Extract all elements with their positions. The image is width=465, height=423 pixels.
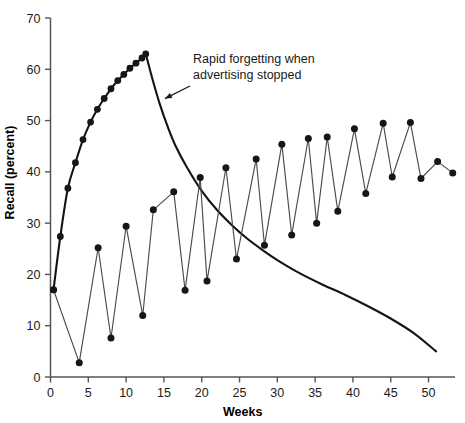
y-tick-label: 10 <box>27 319 41 333</box>
x-tick-label: 10 <box>119 386 133 400</box>
data-point-marker <box>120 71 127 78</box>
y-tick-label: 70 <box>27 12 41 26</box>
data-point-marker <box>434 158 441 165</box>
data-point-marker <box>449 169 456 176</box>
data-point-marker <box>380 120 387 127</box>
y-tick-label: 60 <box>27 63 41 77</box>
x-tick-label: 40 <box>346 386 360 400</box>
data-point-marker <box>170 188 177 195</box>
data-point-marker <box>64 185 71 192</box>
data-point-marker <box>233 256 240 263</box>
annotation-line-2: advertising stopped <box>193 68 301 82</box>
x-tick-label: 15 <box>157 386 171 400</box>
data-point-marker <box>204 278 211 285</box>
annotation-arrowhead <box>165 93 173 99</box>
data-point-marker <box>76 359 83 366</box>
x-tick-label: 0 <box>47 386 54 400</box>
data-point-marker <box>278 141 285 148</box>
y-tick-label: 30 <box>27 217 41 231</box>
data-point-marker <box>108 85 115 92</box>
data-point-marker <box>87 119 94 126</box>
x-tick-label: 5 <box>85 386 92 400</box>
data-point-marker <box>101 95 108 102</box>
x-tick-label: 50 <box>422 386 436 400</box>
data-point-marker <box>305 135 312 142</box>
data-point-marker <box>197 174 204 181</box>
data-point-marker <box>362 190 369 197</box>
data-point-marker <box>313 220 320 227</box>
data-point-marker <box>150 206 157 213</box>
data-point-marker <box>182 287 189 294</box>
x-tick-label: 35 <box>308 386 322 400</box>
series-layer <box>50 51 456 367</box>
x-tick-label: 45 <box>384 386 398 400</box>
data-point-marker <box>126 65 133 72</box>
x-tick-label: 30 <box>270 386 284 400</box>
data-point-marker <box>139 312 146 319</box>
data-point-marker <box>142 51 149 58</box>
x-axis-title: Weeks <box>223 405 262 419</box>
chart-canvas: Rapid forgetting whenadvertising stopped… <box>0 0 465 423</box>
data-point-marker <box>261 242 268 249</box>
y-axis-title: Recall (percent) <box>3 126 17 220</box>
y-tick-label: 20 <box>27 268 41 282</box>
series-line-forgetting-decay-after-advertising-stopped <box>146 54 436 351</box>
data-point-marker <box>72 159 79 166</box>
data-point-marker <box>417 175 424 182</box>
data-point-marker <box>50 286 57 293</box>
y-tick-label: 50 <box>27 114 41 128</box>
data-point-marker <box>57 233 64 240</box>
recall-vs-weeks-chart: Rapid forgetting whenadvertising stopped… <box>0 0 465 423</box>
data-point-marker <box>253 156 260 163</box>
data-point-marker <box>133 60 140 67</box>
data-point-marker <box>334 208 341 215</box>
data-point-marker <box>222 164 229 171</box>
x-tick-label: 25 <box>233 386 247 400</box>
y-tick-label: 0 <box>34 371 41 385</box>
data-point-marker <box>389 173 396 180</box>
data-point-marker <box>114 77 121 84</box>
data-point-marker <box>123 223 130 230</box>
data-point-marker <box>351 125 358 132</box>
data-point-marker <box>324 133 331 140</box>
data-point-marker <box>107 335 114 342</box>
x-tick-label: 20 <box>195 386 209 400</box>
data-point-marker <box>407 119 414 126</box>
data-point-marker <box>80 136 87 143</box>
data-point-marker <box>95 244 102 251</box>
annotation-layer: Rapid forgetting whenadvertising stopped <box>165 52 315 99</box>
data-point-marker <box>288 231 295 238</box>
y-tick-label: 40 <box>27 165 41 179</box>
data-point-marker <box>94 106 101 113</box>
annotation-line-1: Rapid forgetting when <box>193 52 315 66</box>
